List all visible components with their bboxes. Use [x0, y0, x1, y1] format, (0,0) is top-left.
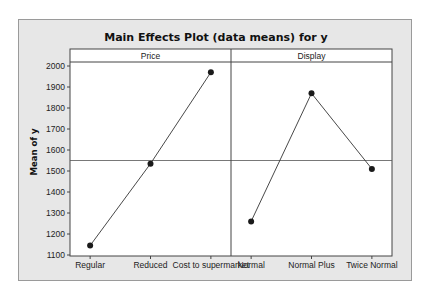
y-tick-label: 1900	[46, 82, 65, 92]
y-tick-label: 1800	[46, 103, 65, 113]
y-tick-label: 1300	[46, 208, 65, 218]
x-tick-label: Normal Plus	[288, 260, 334, 270]
y-axis-label: Mean of y	[29, 128, 39, 175]
x-tick-label: Twice Normal	[346, 260, 398, 270]
y-tick-label: 1100	[47, 250, 66, 260]
y-tick-label: 1600	[46, 145, 65, 155]
panel-label-price: Price	[141, 51, 161, 61]
x-tick-label: Normal	[237, 260, 265, 270]
data-point	[87, 243, 93, 249]
y-tick-label: 1200	[46, 229, 65, 239]
chart-title: Main Effects Plot (data means) for y	[104, 31, 328, 44]
data-point	[208, 69, 214, 75]
data-point	[248, 218, 254, 224]
panel-label-display: Display	[298, 51, 327, 61]
y-tick-label: 2000	[46, 61, 65, 71]
main-effects-chart: Main Effects Plot (data means) for y Mea…	[0, 0, 427, 299]
data-point	[309, 90, 315, 96]
y-tick-label: 1700	[46, 124, 65, 134]
data-point	[148, 161, 154, 167]
y-tick-label: 1500	[46, 166, 65, 176]
y-tick-label: 1400	[46, 187, 65, 197]
data-point	[369, 166, 375, 172]
x-tick-label: Reduced	[133, 260, 167, 270]
x-tick-label: Regular	[75, 260, 105, 270]
